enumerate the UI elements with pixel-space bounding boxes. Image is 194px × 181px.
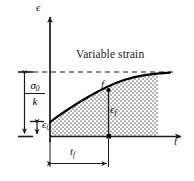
epsilon-f-subscript: f	[114, 108, 116, 117]
creep-strain-figure: ϵ t Variable strain f ϵf ϵ0 tf σ0 k	[0, 0, 194, 181]
point-f-marker	[106, 88, 110, 92]
x-axis-label: t	[174, 136, 177, 147]
tf-axis-tick	[107, 134, 112, 139]
point-f-label: f	[101, 79, 104, 90]
epsilon-0-label: ϵ0	[42, 119, 50, 130]
time-f-label: tf	[70, 146, 75, 157]
fraction-numerator: σ0	[24, 80, 46, 93]
fraction-bar	[25, 93, 45, 94]
sigma-0-subscript: 0	[36, 84, 40, 93]
fraction-denominator: k	[24, 95, 46, 107]
y-axis-label: ϵ	[36, 2, 40, 13]
epsilon-0-subscript: 0	[46, 123, 50, 132]
variable-strain-annotation: Variable strain	[76, 49, 144, 61]
epsilon-f-label: ϵf	[110, 104, 117, 115]
sigma0-over-k-fraction: σ0 k	[24, 80, 46, 107]
time-f-subscript: f	[73, 150, 75, 159]
